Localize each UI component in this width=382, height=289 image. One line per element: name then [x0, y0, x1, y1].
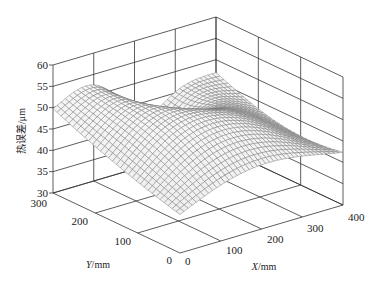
x-tick-400: 400: [348, 211, 365, 223]
z-tick-35: 35: [37, 165, 49, 177]
surface-chart: 60 55 50 45 40 35 30 300 200 100 0 0 100…: [0, 0, 382, 289]
axis-ticks: [49, 65, 53, 193]
z-tick-45: 45: [37, 123, 49, 135]
z-axis-label: 热误差/μm: [15, 108, 27, 154]
z-tick-40: 40: [37, 144, 49, 156]
x-tick-0: 0: [185, 255, 191, 267]
x-tick-300: 300: [307, 222, 324, 234]
y-tick-300: 300: [31, 197, 48, 209]
z-tick-55: 55: [37, 80, 49, 92]
x-axis-label: X/mm: [251, 261, 277, 272]
z-tick-60: 60: [37, 59, 49, 71]
y-axis-label: Y/mm: [86, 259, 110, 270]
z-tick-50: 50: [37, 101, 49, 113]
x-tick-200: 200: [267, 233, 284, 245]
x-tick-100: 100: [226, 244, 243, 256]
y-tick-0: 0: [167, 254, 173, 266]
y-tick-200: 200: [72, 215, 89, 227]
surface-mesh: [53, 73, 343, 215]
y-tick-100: 100: [115, 235, 132, 247]
